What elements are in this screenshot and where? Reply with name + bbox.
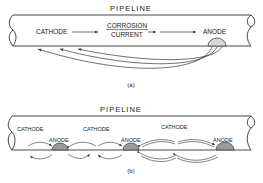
anode-b1: [52, 143, 68, 150]
caption-a: (a): [127, 82, 134, 88]
anode-a: [208, 38, 226, 46]
anode-label-b2: ANODE: [121, 137, 141, 143]
caption-b: (b): [127, 168, 134, 174]
anode-label-b1: ANODE: [49, 137, 69, 143]
cathode-label-b1: CATHODE: [17, 126, 44, 132]
cathode-label-b2: CATHODE: [83, 126, 110, 132]
local-current-paths-b: [28, 140, 218, 163]
cathode-label-a: CATHODE: [36, 28, 68, 35]
pipeline-corrosion-diagram: PIPELINE CATHODE CORROSION CURRENT ANODE…: [0, 0, 263, 183]
current-label-line1: CORROSION: [107, 22, 147, 29]
soil-current-paths-a: [38, 47, 222, 68]
cathode-label-b3: CATHODE: [161, 124, 188, 130]
anode-b3: [216, 142, 234, 150]
diagram-a: PIPELINE CATHODE CORROSION CURRENT ANODE…: [9, 4, 255, 88]
pipeline-title-a: PIPELINE: [110, 4, 152, 13]
anode-b2: [123, 143, 139, 150]
anode-label-a: ANODE: [203, 28, 227, 35]
diagram-b: PIPELINE CATHODE CATHODE CATHODE ANODE A…: [8, 105, 255, 174]
pipeline-title-b: PIPELINE: [100, 105, 142, 114]
current-label-line2: CURRENT: [111, 31, 143, 38]
